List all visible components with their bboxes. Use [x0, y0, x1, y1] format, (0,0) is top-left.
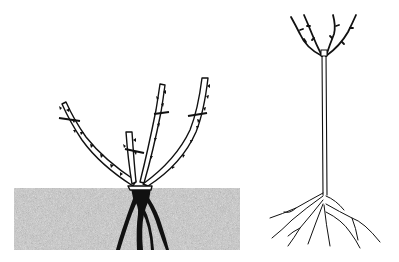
standard-rose: [270, 15, 380, 248]
standard-roots: [270, 193, 380, 248]
rose-drawing: [0, 0, 399, 262]
illustration: Line illustration of two rose plants: [0, 0, 399, 262]
bush-rose: [14, 78, 240, 250]
standard-trunk: [322, 52, 327, 195]
bush-stems: [62, 78, 208, 190]
